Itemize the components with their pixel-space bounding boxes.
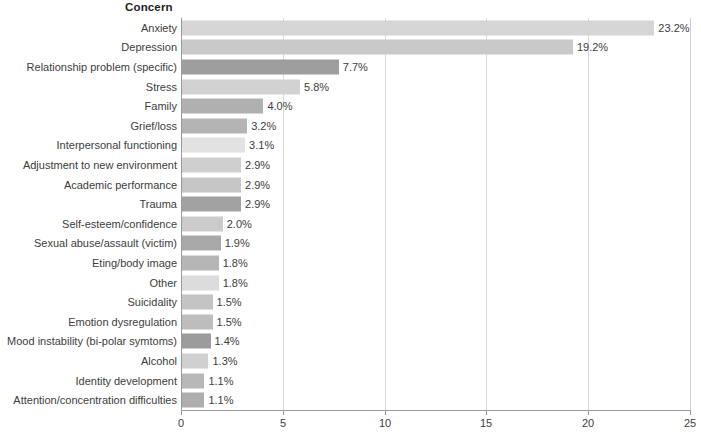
category-label: Attention/concentration difficulties: [13, 394, 177, 406]
bar: [182, 177, 241, 192]
chart-title: Concern: [125, 1, 173, 13]
bar: [182, 275, 219, 290]
bar-row: Anxiety23.2%: [0, 18, 701, 38]
category-label: Adjustment to new environment: [23, 159, 177, 171]
category-label: Interpersonal functioning: [57, 139, 177, 151]
category-label: Identity development: [75, 375, 177, 387]
category-label: Other: [149, 277, 177, 289]
category-label: Academic performance: [64, 179, 177, 191]
x-tick-mark-20: [588, 411, 589, 415]
bar: [182, 334, 211, 349]
bar: [182, 197, 241, 212]
bar-row: Grief/loss3.2%: [0, 116, 701, 136]
bar-row: Alcohol1.3%: [0, 351, 701, 371]
x-tick-label-25: 25: [684, 417, 696, 429]
bar-value-label: 1.5%: [217, 316, 242, 328]
category-label: Trauma: [140, 198, 178, 210]
bar: [182, 40, 573, 55]
bar-row: Interpersonal functioning3.1%: [0, 136, 701, 156]
bar-value-label: 1.9%: [225, 237, 250, 249]
bar-row: Identity development1.1%: [0, 371, 701, 391]
bar: [182, 216, 223, 231]
bar: [182, 118, 247, 133]
bar-value-label: 3.2%: [251, 120, 276, 132]
bar-row: Trauma2.9%: [0, 194, 701, 214]
x-tick-label-10: 10: [379, 417, 391, 429]
bar-row: Sexual abuse/assault (victim)1.9%: [0, 234, 701, 254]
bar-row: Emotion dysregulation1.5%: [0, 312, 701, 332]
bar-value-label: 1.8%: [223, 277, 248, 289]
category-label: Depression: [121, 41, 177, 53]
category-label: Family: [145, 100, 177, 112]
bar-value-label: 23.2%: [658, 22, 689, 34]
category-label: Sexual abuse/assault (victim): [34, 237, 177, 249]
x-tick-mark-5: [283, 411, 284, 415]
bar-row: Depression19.2%: [0, 38, 701, 58]
bar-chart: Concern 0510152025 Anxiety23.2%Depressio…: [0, 0, 701, 439]
bar-value-label: 2.9%: [245, 198, 270, 210]
bar: [182, 20, 654, 35]
category-label: Alcohol: [141, 355, 177, 367]
bar-row: Other1.8%: [0, 273, 701, 293]
bar-value-label: 2.0%: [227, 218, 252, 230]
x-axis-line: [181, 410, 691, 411]
bar-row: Suicidality1.5%: [0, 292, 701, 312]
x-tick-label-5: 5: [280, 417, 286, 429]
bar-value-label: 2.9%: [245, 159, 270, 171]
bar-row: Adjustment to new environment2.9%: [0, 155, 701, 175]
bar: [182, 236, 221, 251]
category-label: Self-esteem/confidence: [62, 218, 177, 230]
category-label: Stress: [146, 81, 177, 93]
bar-value-label: 2.9%: [245, 179, 270, 191]
bar-value-label: 3.1%: [249, 139, 274, 151]
bar-value-label: 1.4%: [215, 335, 240, 347]
bar-value-label: 1.1%: [208, 375, 233, 387]
bar-value-label: 1.8%: [223, 257, 248, 269]
category-label: Eting/body image: [92, 257, 177, 269]
bar-value-label: 5.8%: [304, 81, 329, 93]
bar-row: Stress5.8%: [0, 77, 701, 97]
bar-value-label: 7.7%: [343, 61, 368, 73]
x-tick-label-20: 20: [582, 417, 594, 429]
bar: [182, 353, 208, 368]
x-tick-mark-0: [181, 411, 182, 415]
bar: [182, 99, 263, 114]
bar-value-label: 1.5%: [217, 296, 242, 308]
bar-row: Relationship problem (specific)7.7%: [0, 57, 701, 77]
bar: [182, 255, 219, 270]
bar-value-label: 1.1%: [208, 394, 233, 406]
x-tick-mark-10: [385, 411, 386, 415]
bar-value-label: 19.2%: [577, 41, 608, 53]
x-tick-mark-25: [690, 411, 691, 415]
x-tick-mark-15: [486, 411, 487, 415]
bar-value-label: 1.3%: [212, 355, 237, 367]
bar: [182, 314, 213, 329]
bar-row: Family4.0%: [0, 96, 701, 116]
category-label: Emotion dysregulation: [68, 316, 177, 328]
bar: [182, 138, 245, 153]
bar-value-label: 4.0%: [267, 100, 292, 112]
bar: [182, 157, 241, 172]
bar: [182, 79, 300, 94]
category-label: Anxiety: [141, 22, 177, 34]
category-label: Suicidality: [127, 296, 177, 308]
bar: [182, 393, 204, 408]
category-label: Relationship problem (specific): [27, 61, 177, 73]
bar: [182, 59, 339, 74]
category-label: Grief/loss: [131, 120, 177, 132]
x-tick-label-15: 15: [480, 417, 492, 429]
x-tick-label-0: 0: [178, 417, 184, 429]
bar-row: Eting/body image1.8%: [0, 253, 701, 273]
bar-row: Academic performance2.9%: [0, 175, 701, 195]
bar-row: Mood instability (bi-polar symtoms)1.4%: [0, 332, 701, 352]
bar: [182, 295, 213, 310]
bar: [182, 373, 204, 388]
bar-row: Attention/concentration difficulties1.1%: [0, 390, 701, 410]
category-label: Mood instability (bi-polar symtoms): [7, 335, 177, 347]
bar-row: Self-esteem/confidence2.0%: [0, 214, 701, 234]
